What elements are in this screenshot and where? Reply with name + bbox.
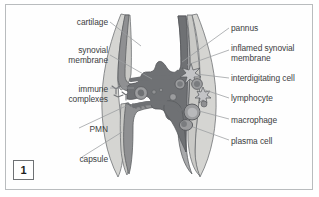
synovial-membrane-left-lower xyxy=(124,101,162,174)
label-immune-complexes: immune complexes xyxy=(18,84,108,105)
joint-space-cell-b xyxy=(159,88,162,91)
lymphocyte-1-nucleus xyxy=(177,81,183,87)
label-lymphocyte: lymphocyte xyxy=(231,93,319,103)
label-synovial-membrane: synovial membrane xyxy=(18,45,108,66)
label-inflamed-synovial-membrane: inflamed synovial membrane xyxy=(231,43,319,64)
plasma-cell-nucleus xyxy=(181,121,187,127)
label-macrophage: macrophage xyxy=(231,115,319,125)
label-interdigitating-cell: interdigitating cell xyxy=(231,73,319,83)
label-capsule: capsule xyxy=(38,154,108,164)
joint-space-cell-a xyxy=(152,90,156,94)
label-cartilage: cartilage xyxy=(22,17,108,27)
lymphocyte-3 xyxy=(170,94,177,101)
label-pmn: PMN xyxy=(48,124,108,134)
pannus-cell-extra xyxy=(201,101,207,107)
label-plasma-cell: plasma cell xyxy=(231,136,319,146)
figure-container: cartilage synovial membrane immune compl… xyxy=(0,0,319,197)
figure-number-box: 1 xyxy=(13,160,34,180)
figure-number: 1 xyxy=(20,164,26,176)
label-pannus: pannus xyxy=(231,23,319,33)
lymphocyte-2-nucleus xyxy=(194,81,200,87)
